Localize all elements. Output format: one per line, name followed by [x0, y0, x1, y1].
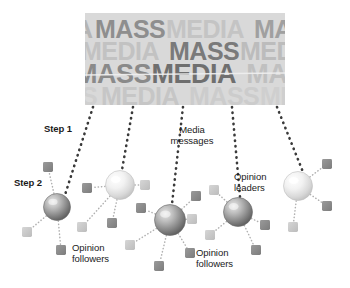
opinion-leader-node [106, 171, 135, 200]
follower-link-f6 [86, 196, 110, 223]
opinion-follower-node [22, 227, 32, 237]
follower-link-f1 [49, 172, 54, 193]
opinion-leader-node [44, 194, 71, 221]
follower-link-f7 [113, 200, 117, 218]
follower-link-f15 [214, 222, 226, 232]
follower-link-f9 [182, 200, 192, 209]
media-message-links [64, 107, 303, 204]
svg-text:MEDIA: MEDIA [101, 82, 180, 110]
follower-link-f19 [310, 195, 322, 203]
svg-text:MASS: MASS [189, 82, 259, 110]
opinion-follower-node [107, 218, 117, 228]
opinion-leader-node [284, 172, 313, 201]
opinion-follower-node [82, 183, 92, 193]
opinion-follower-node [56, 245, 66, 255]
opinion-follower-node [205, 230, 215, 240]
follower-link-f16 [252, 219, 261, 223]
media-message-link-m4 [232, 107, 240, 197]
opinion-follower-node [77, 222, 87, 232]
opinion-follower-node [154, 261, 164, 271]
opinion-follower-node [209, 185, 219, 195]
opinion-leader-node [155, 205, 186, 236]
opinion-follower-node [140, 180, 150, 190]
mass-media-word-block: AMASSMEDIAMASMEDIAMASSMEDIAMASSMEDIAMASS… [75, 13, 322, 110]
follower-link-f8 [146, 210, 155, 214]
media-message-link-m5 [277, 107, 303, 172]
follower-link-f17 [244, 226, 253, 245]
follower-link-f2 [31, 216, 46, 229]
follower-link-f14 [218, 194, 227, 202]
opinion-follower-node [322, 159, 332, 169]
follower-link-f20 [294, 201, 297, 222]
media-message-link-m3 [172, 107, 183, 204]
follower-link-f3 [58, 221, 60, 245]
follower-link-f4 [92, 186, 105, 187]
opinion-follower-node [288, 222, 298, 232]
media-message-link-m2 [122, 107, 133, 170]
opinion-follower-node [125, 240, 135, 250]
opinion-follower-node [251, 245, 261, 255]
two-step-flow-figure: AMASSMEDIAMASMEDIAMASSMEDIAMASSMEDIAMASS… [0, 0, 350, 288]
follower-link-f12 [160, 236, 166, 261]
svg-text:MED: MED [260, 82, 314, 110]
opinion-follower-node [322, 201, 332, 211]
opinion-follower-node [260, 220, 270, 230]
opinion-follower-node [43, 162, 53, 172]
opinion-leader-node [224, 198, 253, 227]
svg-text:S: S [81, 82, 97, 110]
follower-link-f18 [310, 167, 323, 177]
opinion-follower-node [136, 203, 146, 213]
follower-link-f13 [178, 234, 187, 249]
opinion-follower-node [185, 248, 195, 258]
diagram-canvas: AMASSMEDIAMASMEDIAMASSMEDIAMASSMEDIAMASS… [0, 0, 350, 288]
opinion-follower-node [187, 214, 197, 224]
follower-link-f11 [135, 228, 157, 242]
opinion-follower-node [191, 191, 201, 201]
